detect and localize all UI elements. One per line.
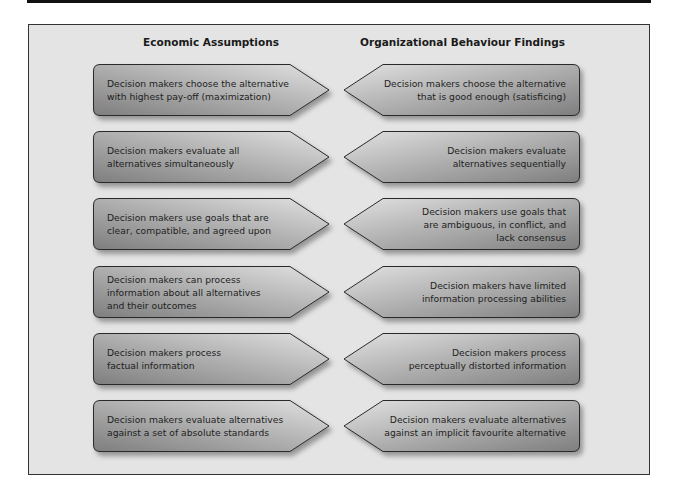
comparison-row: Decision makers can processinformation a…	[0, 266, 674, 318]
text-line: Decision makers evaluate	[447, 144, 566, 157]
ob-finding-arrow: Decision makers use goals thatare ambigu…	[343, 198, 580, 250]
economic-assumption-text: Decision makers evaluate allalternatives…	[107, 131, 307, 183]
text-line: lack consensus	[496, 231, 566, 244]
text-line: Decision makers use goals that are	[107, 211, 307, 224]
ob-finding-text: Decision makers use goals thatare ambigu…	[366, 198, 566, 250]
ob-finding-text: Decision makers choose the alternativeth…	[366, 64, 566, 116]
text-line: Decision makers process	[107, 346, 307, 359]
top-rule	[27, 0, 651, 3]
ob-finding-arrow: Decision makers choose the alternativeth…	[343, 64, 580, 116]
text-line: information processing abilities	[422, 292, 566, 305]
ob-finding-arrow: Decision makers have limitedinformation …	[343, 266, 580, 318]
ob-finding-text: Decision makers evaluatealternatives seq…	[366, 131, 566, 183]
text-line: Decision makers choose the alternative	[384, 77, 566, 90]
text-line: are ambiguous, in conflict, and	[424, 218, 566, 231]
economic-assumption-text: Decision makers choose the alternativewi…	[107, 64, 307, 116]
economic-assumption-arrow: Decision makers can processinformation a…	[93, 266, 330, 318]
text-line: Decision makers choose the alternative	[107, 77, 307, 90]
comparison-row: Decision makers processfactual informati…	[0, 333, 674, 385]
ob-finding-text: Decision makers processperceptually dist…	[366, 333, 566, 385]
text-line: with highest pay-off (maximization)	[107, 90, 307, 103]
text-line: against an implicit favourite alternativ…	[384, 426, 566, 439]
text-line: Decision makers can process	[107, 273, 307, 286]
ob-finding-arrow: Decision makers evaluate alternativesaga…	[343, 400, 580, 452]
economic-assumption-text: Decision makers evaluate alternativesaga…	[107, 400, 307, 452]
comparison-row: Decision makers evaluate allalternatives…	[0, 131, 674, 183]
text-line: factual information	[107, 359, 307, 372]
economic-assumption-text: Decision makers processfactual informati…	[107, 333, 307, 385]
ob-finding-text: Decision makers have limitedinformation …	[366, 266, 566, 318]
text-line: alternatives simultaneously	[107, 157, 307, 170]
economic-assumption-arrow: Decision makers choose the alternativewi…	[93, 64, 330, 116]
economic-assumption-arrow: Decision makers evaluate allalternatives…	[93, 131, 330, 183]
text-line: Decision makers use goals that	[422, 205, 566, 218]
comparison-row: Decision makers choose the alternativewi…	[0, 64, 674, 116]
text-line: Decision makers have limited	[430, 279, 566, 292]
comparison-row: Decision makers use goals that areclear,…	[0, 198, 674, 250]
header-ob-findings: Organizational Behaviour Findings	[345, 36, 580, 48]
text-line: and their outcomes	[107, 299, 307, 312]
text-line: that is good enough (satisficing)	[417, 90, 566, 103]
economic-assumption-arrow: Decision makers processfactual informati…	[93, 333, 330, 385]
economic-assumption-text: Decision makers can processinformation a…	[107, 266, 307, 318]
ob-finding-text: Decision makers evaluate alternativesaga…	[366, 400, 566, 452]
ob-finding-arrow: Decision makers evaluatealternatives seq…	[343, 131, 580, 183]
economic-assumption-text: Decision makers use goals that areclear,…	[107, 198, 307, 250]
text-line: Decision makers evaluate all	[107, 144, 307, 157]
header-economic-assumptions: Economic Assumptions	[93, 36, 329, 48]
text-line: Decision makers evaluate alternatives	[390, 413, 566, 426]
ob-finding-arrow: Decision makers processperceptually dist…	[343, 333, 580, 385]
economic-assumption-arrow: Decision makers use goals that areclear,…	[93, 198, 330, 250]
economic-assumption-arrow: Decision makers evaluate alternativesaga…	[93, 400, 330, 452]
text-line: alternatives sequentially	[453, 157, 566, 170]
text-line: Decision makers evaluate alternatives	[107, 413, 307, 426]
text-line: against a set of absolute standards	[107, 426, 307, 439]
text-line: information about all alternatives	[107, 286, 307, 299]
comparison-row: Decision makers evaluate alternativesaga…	[0, 400, 674, 452]
text-line: Decision makers process	[452, 346, 566, 359]
text-line: perceptually distorted information	[409, 359, 566, 372]
text-line: clear, compatible, and agreed upon	[107, 224, 307, 237]
